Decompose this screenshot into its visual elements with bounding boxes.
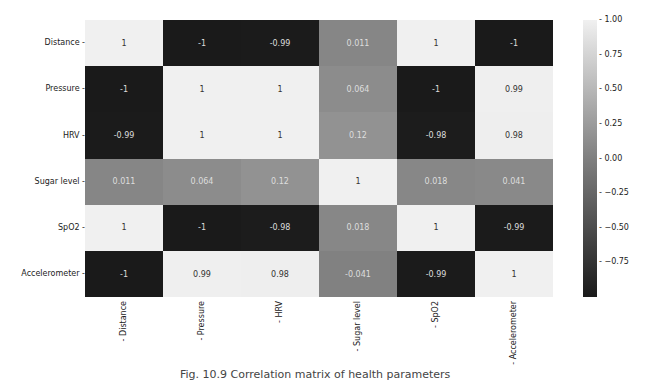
- heatmap-cell: -1: [397, 66, 475, 112]
- colorbar-tick-label: - 0.75: [599, 50, 622, 59]
- heatmap-cell: -0.041: [319, 251, 397, 297]
- x-tick-label: HRV -: [275, 301, 284, 323]
- heatmap-cell: 1: [319, 159, 397, 205]
- heatmap-cell: 0.018: [397, 159, 475, 205]
- heatmap-cell: 1: [475, 251, 553, 297]
- colorbar-tick-label: - −0.75: [599, 257, 629, 266]
- heatmap-cell: -0.99: [397, 251, 475, 297]
- y-tick-label: HRV -: [63, 131, 85, 140]
- heatmap-cell: 1: [85, 20, 163, 66]
- heatmap-cell: 1: [397, 205, 475, 251]
- y-tick-label: Sugar level -: [35, 177, 85, 186]
- colorbar-tick-label: - 0.50: [599, 84, 622, 93]
- colorbar: [583, 20, 597, 297]
- heatmap-cell: 1: [241, 112, 319, 158]
- heatmap-cell: -0.98: [397, 112, 475, 158]
- heatmap-cell: 1: [241, 66, 319, 112]
- heatmap-cell: 0.011: [319, 20, 397, 66]
- heatmap-cell: 1: [397, 20, 475, 66]
- figure-caption: Fig. 10.9 Correlation matrix of health p…: [180, 368, 450, 381]
- heatmap-cell: 1: [85, 205, 163, 251]
- heatmap-cell: -1: [163, 205, 241, 251]
- x-tick-label: Distance -: [119, 301, 128, 341]
- colorbar-tick-label: - −0.50: [599, 223, 629, 232]
- colorbar-tick-label: - 0.25: [599, 119, 622, 128]
- heatmap-cell: 0.12: [241, 159, 319, 205]
- y-tick-label: Accelerometer -: [21, 269, 85, 278]
- heatmap-cell: 0.041: [475, 159, 553, 205]
- heatmap-cell: 0.064: [163, 159, 241, 205]
- heatmap-cell: 1: [163, 66, 241, 112]
- heatmap-cell: -1: [85, 251, 163, 297]
- heatmap-cell: -1: [85, 66, 163, 112]
- heatmap-cell: 0.018: [319, 205, 397, 251]
- x-tick-label: Pressure -: [197, 301, 206, 341]
- x-tick-label: SpO2 -: [431, 301, 440, 328]
- heatmap-cell: -0.99: [85, 112, 163, 158]
- heatmap-cell: 0.064: [319, 66, 397, 112]
- heatmap-cell: -1: [475, 20, 553, 66]
- heatmap-cell: -1: [163, 20, 241, 66]
- x-tick-label: Sugar level -: [353, 301, 362, 351]
- heatmap-cell: 0.99: [475, 66, 553, 112]
- colorbar-tick-label: - 1.00: [599, 15, 622, 24]
- heatmap-cell: -0.99: [475, 205, 553, 251]
- heatmap-cell: -0.99: [241, 20, 319, 66]
- heatmap-cell: 0.98: [241, 251, 319, 297]
- heatmap-cell: 0.99: [163, 251, 241, 297]
- heatmap-cell: 1: [163, 112, 241, 158]
- colorbar-tick-label: - −0.25: [599, 188, 629, 197]
- y-tick-label: Distance -: [45, 38, 85, 47]
- y-tick-label: SpO2 -: [58, 223, 85, 232]
- heatmap-cell: 0.98: [475, 112, 553, 158]
- heatmap-cell: -0.98: [241, 205, 319, 251]
- x-tick-label: Accelerometer -: [509, 301, 518, 365]
- heatmap-cell: 0.12: [319, 112, 397, 158]
- colorbar-tick-label: - 0.00: [599, 154, 622, 163]
- y-tick-label: Pressure -: [45, 84, 85, 93]
- correlation-heatmap: 1-1-0.990.0111-1-1110.064-10.99-0.99110.…: [85, 20, 553, 297]
- heatmap-cell: 0.011: [85, 159, 163, 205]
